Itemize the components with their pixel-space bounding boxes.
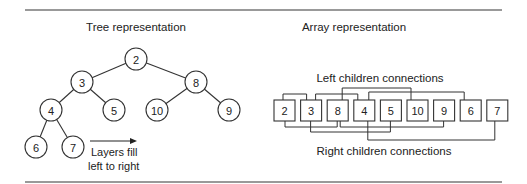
cell-value: 2 — [281, 105, 287, 117]
cell-value: 4 — [361, 105, 367, 117]
array-cell: 4 — [354, 100, 375, 121]
node-value: 2 — [133, 54, 139, 66]
array-cell: 5 — [380, 100, 401, 121]
node-value: 3 — [79, 77, 85, 89]
cell-value: 7 — [494, 105, 500, 117]
node-value: 10 — [151, 105, 163, 117]
cell-value: 9 — [441, 105, 447, 117]
node-value: 7 — [70, 142, 76, 154]
tree-node: 3 — [71, 71, 93, 93]
tree-node: 2 — [125, 48, 147, 70]
tree-node: 4 — [40, 99, 62, 121]
left-child-connection — [369, 92, 464, 100]
annotation-line1: Layers fill — [91, 146, 137, 158]
tree-node: 8 — [185, 71, 207, 93]
array-boxes: 2384510967 — [274, 100, 508, 121]
cell-value: 6 — [468, 105, 474, 117]
left-children-label: Left children connections — [316, 72, 443, 84]
array-cell: 7 — [487, 100, 508, 121]
annotation-line2: left to right — [88, 160, 139, 172]
cell-value: 5 — [388, 105, 394, 117]
array-cell: 2 — [274, 100, 295, 121]
right-child-connection — [340, 121, 443, 127]
tree-node: 10 — [146, 99, 168, 121]
node-value: 6 — [33, 142, 39, 154]
array-cell: 3 — [301, 100, 322, 121]
tree-title: Tree representation — [86, 21, 186, 33]
cell-value: 10 — [411, 105, 423, 117]
right-child-connection — [368, 121, 495, 140]
right-children-label: Right children connections — [317, 145, 452, 157]
arrowhead-icon — [130, 138, 137, 144]
array-cell: 10 — [407, 100, 428, 121]
layers-fill-annotation: Layers fill left to right — [88, 138, 139, 172]
node-value: 5 — [111, 105, 117, 117]
array-cell: 9 — [434, 100, 455, 121]
cell-value: 8 — [335, 105, 341, 117]
node-value: 9 — [226, 105, 232, 117]
left-child-connection — [316, 94, 358, 100]
array-title: Array representation — [302, 21, 406, 33]
node-value: 4 — [48, 105, 54, 117]
left-child-connection — [283, 94, 307, 100]
node-value: 8 — [193, 77, 199, 89]
tree-node: 9 — [218, 99, 240, 121]
array-cell: 6 — [460, 100, 481, 121]
tree-node: 5 — [103, 99, 125, 121]
tree-node: 6 — [25, 136, 47, 158]
array-cell: 8 — [327, 100, 348, 121]
tree-node: 7 — [62, 136, 84, 158]
cell-value: 3 — [308, 105, 314, 117]
heap-diagram: Tree representation 2384510967 Layers fi… — [0, 0, 527, 184]
